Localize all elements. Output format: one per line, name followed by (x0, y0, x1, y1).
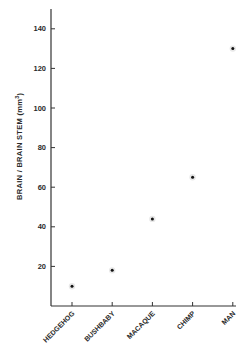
x-tick-label-bushbaby: BUSHBABY (83, 310, 116, 343)
x-tick-label-chimp: CHIMP (175, 310, 196, 331)
y-tick-label: 140 (33, 24, 46, 33)
x-tick-label-macaque: MACAQUE (126, 310, 157, 341)
y-tick-label: 60 (38, 183, 46, 192)
chart: 20406080100120140 HEDGEHOGBUSHBABYMACAQU… (0, 0, 241, 353)
y-ticks: 20406080100120140 (33, 24, 55, 271)
data-point-macaque (151, 217, 154, 220)
x-ticks: HEDGEHOGBUSHBABYMACAQUECHIMPMAN (42, 302, 237, 344)
data-point-man (231, 47, 234, 50)
data-point-hedgehog (71, 285, 74, 288)
y-tick-label: 20 (38, 262, 46, 271)
y-tick-label: 120 (33, 64, 46, 73)
y-tick-label: 40 (38, 222, 46, 231)
data-point-bushbaby (111, 269, 114, 272)
data-point-chimp (191, 176, 194, 179)
x-tick-label-man: MAN (220, 310, 236, 326)
y-tick-label: 80 (38, 143, 46, 152)
y-axis-title: BRAIN / BRAIN STEM (mm3) (14, 92, 24, 200)
y-tick-label: 100 (33, 104, 46, 113)
x-tick-label-hedgehog: HEDGEHOG (42, 309, 76, 343)
data-points (69, 45, 236, 289)
